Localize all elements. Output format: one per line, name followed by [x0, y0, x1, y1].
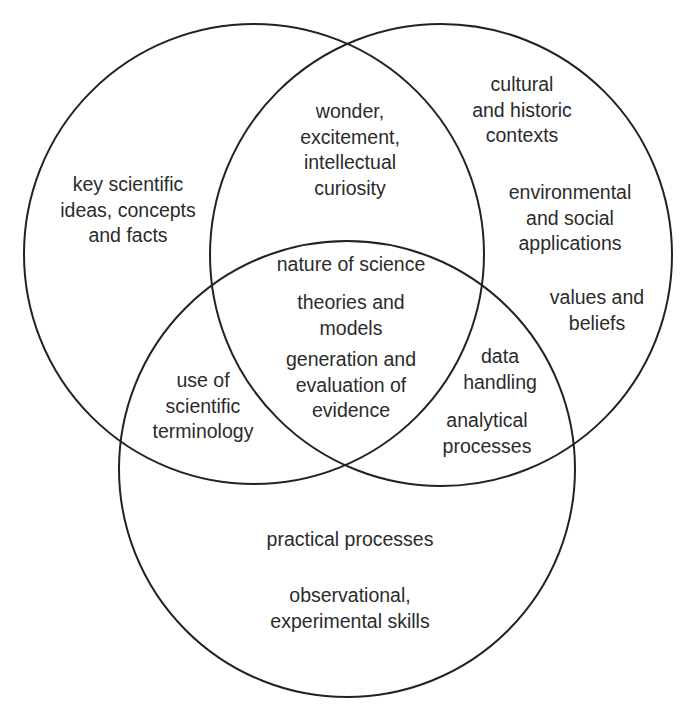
label-line: and historic [472, 98, 572, 124]
label-line: use of [153, 368, 254, 394]
label-line: scientific [153, 394, 254, 420]
region-center-theories: theories and models [297, 290, 404, 341]
label-line: observational, [270, 583, 429, 609]
region-right-bottom-data: data handling [463, 344, 537, 395]
region-right-environmental: environmental and social applications [509, 180, 631, 257]
label-line: ideas, concepts [60, 198, 196, 224]
label-line: values and [550, 285, 644, 311]
label-line: excitement, [300, 125, 400, 151]
region-center-nature: nature of science [277, 252, 426, 278]
label-line: evidence [286, 398, 416, 424]
label-line: data [463, 344, 537, 370]
label-line: contexts [472, 123, 572, 149]
label-line: analytical [443, 408, 532, 434]
label-line: intellectual [300, 150, 400, 176]
region-bottom-skills: observational, experimental skills [270, 583, 429, 634]
region-left-bottom: use of scientific terminology [153, 368, 254, 445]
label-line: applications [509, 231, 631, 257]
label-line: evaluation of [286, 373, 416, 399]
label-line: handling [463, 370, 537, 396]
label-line: key scientific [60, 172, 196, 198]
label-line: nature of science [277, 252, 426, 278]
label-line: cultural [472, 72, 572, 98]
label-line: theories and [297, 290, 404, 316]
region-left-only: key scientific ideas, concepts and facts [60, 172, 196, 249]
label-line: wonder, [300, 99, 400, 125]
region-right-cultural: cultural and historic contexts [472, 72, 572, 149]
label-line: models [297, 316, 404, 342]
region-right-bottom-analytical: analytical processes [443, 408, 532, 459]
label-line: environmental [509, 180, 631, 206]
region-left-right: wonder, excitement, intellectual curiosi… [300, 99, 400, 201]
label-line: processes [443, 434, 532, 460]
label-line: experimental skills [270, 609, 429, 635]
region-bottom-practical: practical processes [267, 527, 434, 553]
region-right-values: values and beliefs [550, 285, 644, 336]
label-line: practical processes [267, 527, 434, 553]
region-center-evidence: generation and evaluation of evidence [286, 347, 416, 424]
label-line: generation and [286, 347, 416, 373]
label-line: terminology [153, 419, 254, 445]
label-line: beliefs [550, 311, 644, 337]
label-line: curiosity [300, 176, 400, 202]
label-line: and social [509, 206, 631, 232]
label-line: and facts [60, 223, 196, 249]
